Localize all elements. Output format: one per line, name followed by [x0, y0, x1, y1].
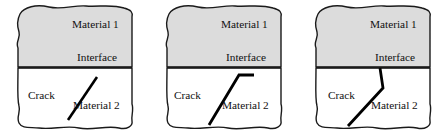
material2-label: Material 2 — [73, 99, 120, 111]
interface-label: Interface — [226, 51, 266, 63]
panel-crack-penetrating-interface: Material 1 Interface Crack Material 2 — [298, 0, 447, 137]
crack-label: Crack — [328, 89, 355, 101]
crack-label: Crack — [174, 89, 201, 101]
material1-label: Material 1 — [370, 18, 417, 30]
material2-label: Material 2 — [222, 99, 269, 111]
interface-label: Interface — [77, 51, 117, 63]
material1-label: Material 1 — [221, 18, 268, 30]
crack-label: Crack — [28, 89, 55, 101]
interface-label: Interface — [375, 51, 415, 63]
bimaterial-crack-figure: Material 1 Interface Crack Material 2 Ma… — [0, 0, 447, 137]
panel-crack-deflected-along-interface: Material 1 Interface Crack Material 2 — [149, 0, 298, 137]
material2-label: Material 2 — [371, 99, 418, 111]
panel-crack-approaching-interface: Material 1 Interface Crack Material 2 — [0, 0, 149, 137]
material1-label: Material 1 — [72, 18, 119, 30]
